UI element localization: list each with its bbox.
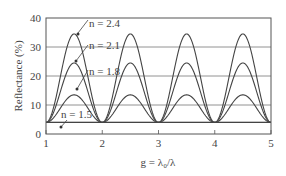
label-n-2-4: n = 2.4 xyxy=(89,17,120,29)
label-n-1-8: n = 1.8 xyxy=(89,65,120,77)
label-n-2-1: n = 2.1 xyxy=(89,39,120,51)
x-axis-ticks: 12345 xyxy=(43,130,274,149)
y-tick-label: 10 xyxy=(30,99,42,111)
x-tick-label: 3 xyxy=(156,137,162,149)
x-tick-label: 4 xyxy=(212,137,218,149)
y-tick-label: 40 xyxy=(30,12,42,24)
annotations: n = 2.4 n = 2.1 n = 1.8 n = 1.5 xyxy=(60,17,121,129)
x-tick-label: 1 xyxy=(43,137,49,149)
x-tick-label: 5 xyxy=(268,137,274,149)
y-tick-label: 30 xyxy=(30,41,42,53)
y-tick-label: 0 xyxy=(36,128,42,140)
x-tick-label: 2 xyxy=(100,137,106,149)
reflectance-chart: 12345 010203040 g = λ₀/λ Reflectance (%)… xyxy=(0,0,286,176)
y-axis-label: Reflectance (%) xyxy=(12,40,25,111)
x-axis-label: g = λ₀/λ xyxy=(141,156,176,168)
label-n-1-5: n = 1.5 xyxy=(61,108,92,120)
y-tick-label: 20 xyxy=(30,70,42,82)
y-axis-ticks: 010203040 xyxy=(30,12,42,140)
